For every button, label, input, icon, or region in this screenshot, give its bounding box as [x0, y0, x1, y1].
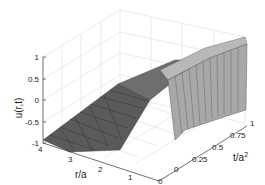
y-axis-label: t/a2 [233, 151, 248, 163]
y-tick-1: 1 [250, 119, 255, 128]
x-tick-2: 2 [98, 165, 103, 174]
surface-plot-figure: 1 0.5 0 -0.5 -1 u(r,t) 4 3 2 1 0 r/a 0 0… [0, 0, 265, 185]
y-tick-0.5: 0.5 [212, 143, 224, 152]
labels-layer: 1 0.5 0 -0.5 -1 u(r,t) 4 3 2 1 0 r/a 0 0… [0, 0, 265, 185]
z-axis-label: u(r,t) [13, 98, 24, 119]
y-tick-0.75: 0.75 [230, 131, 246, 140]
x-tick-0: 0 [158, 177, 163, 185]
y-axis-label-base: t/a [233, 152, 245, 163]
z-tick-0: 0 [35, 96, 40, 105]
z-tick-neg0.5: -0.5 [25, 118, 39, 127]
z-tick-1: 1 [35, 53, 40, 62]
x-axis-label: r/a [75, 169, 87, 180]
y-axis-label-sup: 2 [244, 151, 248, 158]
x-tick-3: 3 [68, 155, 73, 164]
y-tick-0.25: 0.25 [192, 155, 208, 164]
z-tick-0.5: 0.5 [28, 75, 40, 84]
x-tick-4: 4 [38, 145, 43, 154]
x-tick-1: 1 [128, 173, 133, 182]
y-tick-0: 0 [174, 165, 179, 174]
